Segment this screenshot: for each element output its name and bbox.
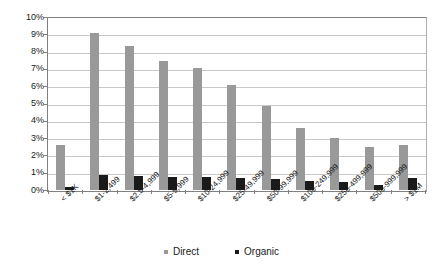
y-axis: 10%9%8%7%6%5%4%3%2%1%0% <box>0 0 44 266</box>
legend-item-direct[interactable]: Direct <box>164 246 199 257</box>
legend-label-direct: Direct <box>173 246 199 257</box>
bar-group <box>82 18 116 190</box>
chart-legend: Direct Organic <box>0 246 443 257</box>
legend-swatch-direct-icon <box>164 250 168 254</box>
y-tick-label: 5% <box>2 99 44 108</box>
x-tick-mark <box>151 190 152 194</box>
bar-direct[interactable] <box>56 145 65 190</box>
y-tick-label: 6% <box>2 82 44 91</box>
bar-direct[interactable] <box>90 33 99 190</box>
x-tick-mark <box>219 190 220 194</box>
y-tick-mark <box>43 155 47 156</box>
y-tick-label: 9% <box>2 30 44 39</box>
x-tick-mark <box>391 190 392 194</box>
bar-group <box>356 18 390 190</box>
bar-direct[interactable] <box>296 128 305 190</box>
y-tick-label: 2% <box>2 151 44 160</box>
bar-chart: 10%9%8%7%6%5%4%3%2%1%0% < $1K$1-2,499$2.… <box>0 0 443 266</box>
x-tick-mark <box>48 190 49 194</box>
y-tick-mark <box>43 34 47 35</box>
x-tick-mark <box>425 190 426 194</box>
y-tick-label: 0% <box>2 186 44 195</box>
x-tick-mark <box>322 190 323 194</box>
bar-direct[interactable] <box>193 68 202 190</box>
y-tick-mark <box>43 190 47 191</box>
bar-group <box>185 18 219 190</box>
bar-group <box>322 18 356 190</box>
legend-swatch-organic-icon <box>235 250 239 254</box>
bar-group <box>219 18 253 190</box>
bar-group <box>391 18 425 190</box>
x-tick-mark <box>356 190 357 194</box>
bar-direct[interactable] <box>159 61 168 190</box>
bar-direct[interactable] <box>125 46 134 190</box>
y-tick-mark <box>43 52 47 53</box>
y-tick-label: 3% <box>2 134 44 143</box>
y-tick-mark <box>43 17 47 18</box>
x-tick-mark <box>117 190 118 194</box>
x-tick-mark <box>185 190 186 194</box>
bar-group <box>151 18 185 190</box>
y-tick-mark <box>43 138 47 139</box>
bar-group <box>288 18 322 190</box>
y-tick-label: 8% <box>2 47 44 56</box>
bar-group <box>254 18 288 190</box>
y-tick-mark <box>43 104 47 105</box>
y-tick-label: 7% <box>2 64 44 73</box>
bar-group <box>48 18 82 190</box>
x-tick-mark <box>254 190 255 194</box>
y-tick-mark <box>43 173 47 174</box>
x-tick-mark <box>288 190 289 194</box>
y-tick-mark <box>43 121 47 122</box>
y-tick-label: 10% <box>2 13 44 22</box>
legend-label-organic: Organic <box>244 246 279 257</box>
y-tick-label: 1% <box>2 168 44 177</box>
x-tick-mark <box>82 190 83 194</box>
legend-item-organic[interactable]: Organic <box>235 246 279 257</box>
y-tick-label: 4% <box>2 116 44 125</box>
y-tick-mark <box>43 69 47 70</box>
bar-group <box>117 18 151 190</box>
y-tick-mark <box>43 86 47 87</box>
